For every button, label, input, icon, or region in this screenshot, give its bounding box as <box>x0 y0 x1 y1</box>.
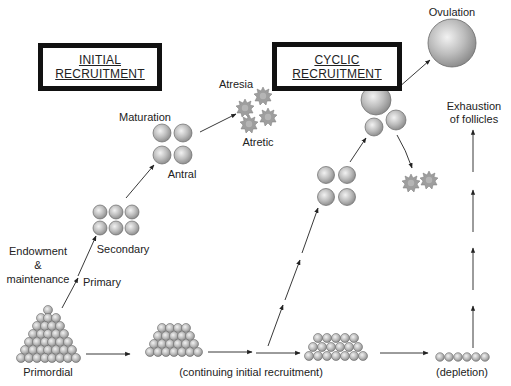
endowment-label-2: & <box>34 259 41 271</box>
antral-label: Antral <box>168 168 197 180</box>
primordial-pool-2 <box>146 324 203 357</box>
arrows <box>62 60 473 354</box>
atretic-follicles-cyclic <box>402 171 438 192</box>
atretic-label: Atretic <box>242 136 273 148</box>
initial-recruitment-line1: INITIAL <box>79 53 121 67</box>
antral-follicles <box>153 124 192 164</box>
maturation-label: Maturation <box>119 111 171 123</box>
cyclic-recruitment-line2: RECRUITMENT <box>292 67 382 81</box>
primordial-label: Primordial <box>23 366 73 378</box>
initial-recruitment-box: INITIAL RECRUITMENT <box>38 43 162 91</box>
primary-label: Primary <box>83 276 121 288</box>
secondary-follicles <box>93 205 139 235</box>
secondary-label: Secondary <box>97 243 150 255</box>
primordial-pool <box>17 306 81 363</box>
cyclic-antral-follicles <box>318 167 356 206</box>
atretic-follicles-initial <box>236 87 277 133</box>
exhaustion-label-2: of follicles <box>450 113 498 125</box>
primordial-pool-3 <box>305 334 368 361</box>
continuing-recruitment-label: (continuing initial recruitment) <box>179 366 323 378</box>
exhaustion-label-1: Exhaustion <box>447 100 501 112</box>
cyclic-recruitment-box: CYCLIC RECRUITMENT <box>272 42 402 91</box>
ovulation-label: Ovulation <box>429 6 475 18</box>
cyclic-recruitment-line1: CYCLIC <box>314 53 359 67</box>
atresia-label: Atresia <box>219 78 253 90</box>
ovulatory-follicle <box>428 19 476 67</box>
endowment-label-3: maintenance <box>7 273 70 285</box>
depleted-pool <box>436 353 490 362</box>
selected-follicles <box>361 85 406 136</box>
initial-recruitment-line2: RECRUITMENT <box>55 67 145 81</box>
depletion-label: (depletion) <box>436 366 488 378</box>
endowment-label-1: Endowment <box>9 245 67 257</box>
follicle-recruitment-diagram: INITIAL RECRUITMENT CYCLIC RECRUITMENT O… <box>0 0 511 386</box>
